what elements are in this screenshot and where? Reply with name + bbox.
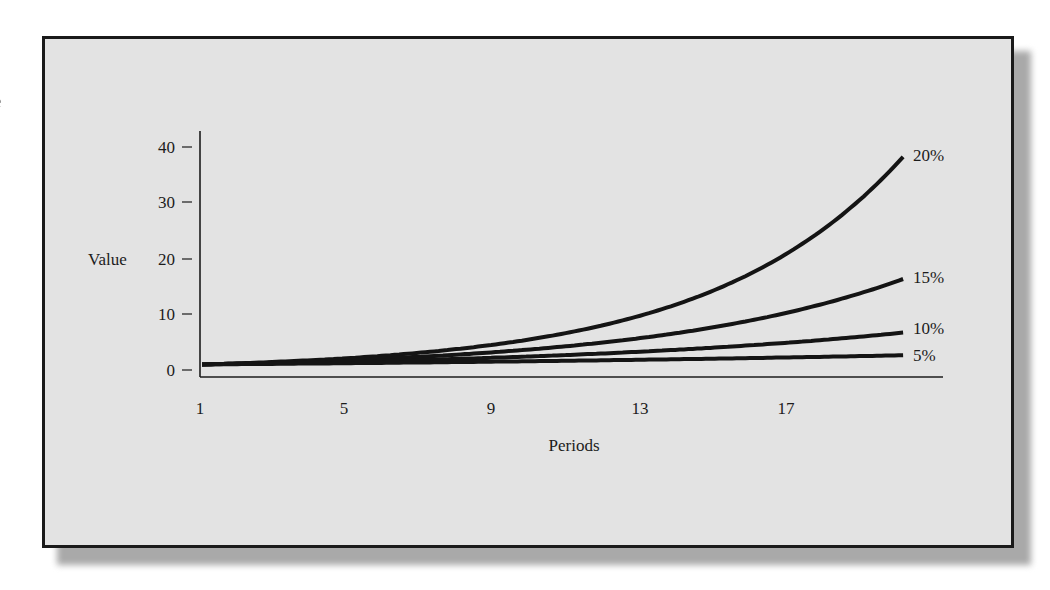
- series-lines: [202, 157, 903, 365]
- y-tick-labels: 40 30 20 10 0: [158, 138, 175, 380]
- series-label-10pct: 10%: [913, 319, 944, 338]
- series-line-15pct: [202, 279, 903, 364]
- y-tick-40: 40: [158, 138, 175, 157]
- y-ticks: [182, 147, 192, 370]
- series-line-20pct: [202, 157, 903, 365]
- x-tick-labels: 1 5 9 13 17: [196, 399, 795, 418]
- x-tick-17: 17: [778, 399, 796, 418]
- y-tick-20: 20: [158, 250, 175, 269]
- y-tick-10: 10: [158, 305, 175, 324]
- series-label-5pct: 5%: [913, 346, 936, 365]
- y-tick-30: 30: [158, 193, 175, 212]
- x-axis-label: Periods: [549, 436, 600, 455]
- y-tick-0: 0: [167, 361, 176, 380]
- series-label-15pct: 15%: [913, 268, 944, 287]
- x-tick-5: 5: [340, 399, 349, 418]
- x-tick-1: 1: [196, 399, 205, 418]
- x-tick-9: 9: [487, 399, 496, 418]
- series-label-20pct: 20%: [913, 146, 944, 165]
- series-labels: 20%15%10%5%: [913, 146, 944, 365]
- chart: 40 30 20 10 0 Value 1 5 9 13 17 Periods …: [0, 0, 1050, 590]
- y-axis-label: Value: [88, 250, 127, 269]
- x-tick-13: 13: [632, 399, 649, 418]
